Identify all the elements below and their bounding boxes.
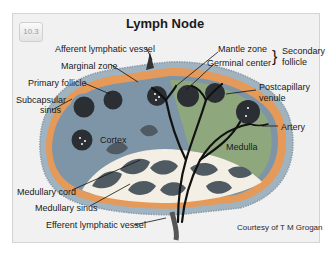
label-subcapsular-sinus-line2: sinus: [40, 105, 61, 115]
brace: }: [272, 45, 277, 69]
label-secondary-follicle-line1: Secondary: [282, 46, 325, 56]
label-cortex: Cortex: [100, 135, 127, 145]
label-postcapillary-venule-line2: venule: [259, 93, 286, 103]
label-medullary-cord: Medullary cord: [17, 187, 76, 197]
label-subcapsular-sinus-line1: Subcapsular: [16, 95, 66, 105]
label-marginal-zone: Marginal zone: [61, 61, 118, 71]
label-germinal-center: Germinal center: [207, 58, 271, 68]
label-postcapillary-venule-line1: Postcapillary: [259, 82, 310, 92]
label-efferent-lymphatic-vessel: Efferent lymphatic vessel: [46, 220, 146, 230]
label-secondary-follicle-line2: follicle: [282, 57, 307, 67]
image-credit: Courtesy of T M Grogan: [237, 223, 323, 232]
label-mantle-zone: Mantle zone: [218, 44, 267, 54]
label-afferent-lymphatic-vessel: Afferent lymphatic vessel: [55, 44, 155, 54]
efferent-vessel: [172, 212, 177, 240]
label-artery: Artery: [281, 122, 305, 132]
label-medulla: Medulla: [226, 142, 258, 152]
label-primary-follicle: Primary follicle: [28, 78, 87, 88]
label-medullary-sinus: Medullary sinus: [35, 203, 98, 213]
afferent-vessel: [146, 52, 154, 70]
